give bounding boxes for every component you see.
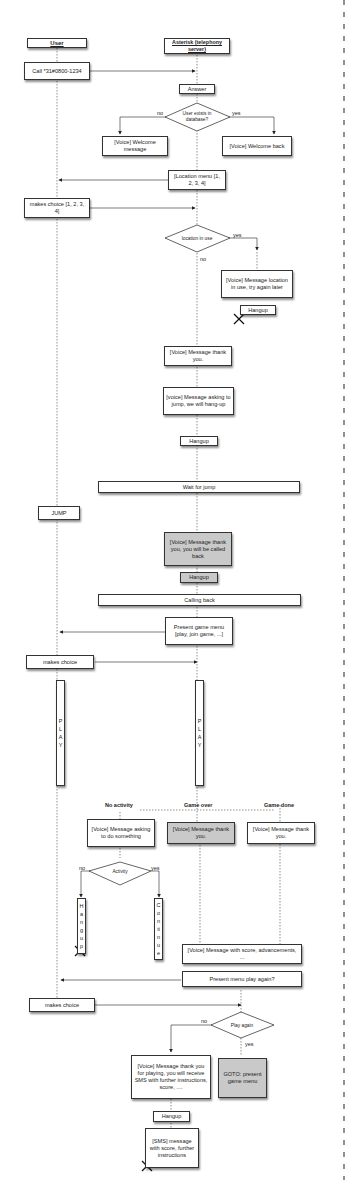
game-over-label: Game over (184, 802, 212, 808)
branch-no-label: no (157, 110, 163, 116)
terminate-x-1 (234, 314, 244, 324)
call-text: Call *31#0800-1234 (32, 68, 81, 75)
calling-back-text: Calling back (184, 597, 214, 604)
makes-choice-game-box: makes choice (26, 655, 94, 669)
makes-choice-location-text: makes choice [1, 2, 3, 4] (27, 201, 87, 215)
called-back-text: [Voice] Message thank you, you will be c… (167, 539, 229, 560)
location-in-use-text: [Voice] Message location in use, try aga… (224, 277, 290, 291)
score-message-box: [Voice] Message with score, advancements… (182, 944, 302, 964)
ask-jump-text: [voice] Message asking to jump, we will … (166, 394, 231, 408)
called-back-box: [Voice] Message thank you, you will be c… (164, 532, 232, 566)
welcome-back-box: [Voice] Welcome back (222, 136, 292, 156)
ask-do-something-box: [Voice] Message asking to do something (87, 819, 155, 847)
sms-message-box: [SMS] message with score, further instru… (145, 1128, 199, 1168)
location-menu-text: [Location menu [1, 2, 3, 4] (171, 173, 223, 187)
thank-you-game-over-box: [Voice] Message thank you. (167, 822, 235, 844)
present-play-again-text: Present menu play again? (210, 976, 275, 983)
lifeline-asterisk-label: Asterisk (telephony server) (167, 39, 227, 53)
activity-no-label: no (79, 865, 85, 871)
lifeline-asterisk-header: Asterisk (telephony server) (164, 38, 230, 54)
hangup-vertical-text: Hangup (80, 902, 84, 950)
thank-you-box-1: [Voice] Message thank you. (164, 346, 232, 366)
score-message-text: [Voice] Message with score, advancements… (185, 947, 299, 961)
location-no-label: no (200, 256, 206, 262)
thank-you-game-over-text: [Voice] Message thank you. (170, 826, 232, 840)
makes-choice-location-box: makes choice [1, 2, 3, 4] (24, 198, 90, 218)
play-again-yes-label: yes (245, 1041, 254, 1047)
jump-text: JUMP (51, 510, 66, 517)
thank-you-sms-text: [Voice] Message thank you for playing, y… (134, 1063, 208, 1091)
hangup-text-3: Hangup (189, 574, 209, 581)
hangup-text-1: Hangup (248, 307, 268, 314)
hangup-text-2: Hangup (189, 438, 209, 445)
decision-activity-text: Activity (100, 869, 140, 875)
makes-choice-again-box: makes choice (29, 998, 95, 1012)
goto-menu-box: GOTO: present game menu (218, 1058, 267, 1098)
thank-you-sms-box: [Voice] Message thank you for playing, y… (131, 1055, 211, 1099)
hangup-box-4: Hangup (153, 1111, 190, 1122)
welcome-message-text: [Voice] Welcome message (105, 139, 165, 153)
continue-vertical-bar: Continue (154, 898, 163, 960)
continue-vertical-text: Continue (157, 901, 161, 957)
goto-menu-text: GOTO: present game menu (221, 1071, 264, 1085)
game-done-label: Game done (264, 802, 294, 808)
makes-choice-game-text: makes choice (43, 659, 77, 666)
thank-you-text-1: [Voice] Message thank you. (167, 349, 229, 363)
answer-box: Answer (179, 84, 215, 94)
wait-for-jump-box: Wait for jump (98, 481, 300, 493)
present-play-again-box: Present menu play again? (182, 971, 302, 987)
play-bar-server: PLAY (195, 680, 204, 786)
location-yes-label: yes (233, 232, 242, 238)
sms-message-text: [SMS] message with score, further instru… (148, 1138, 196, 1159)
hangup-box-2: Hangup (180, 436, 218, 446)
hangup-box-3: Hangup (180, 572, 218, 583)
welcome-message-box: [Voice] Welcome message (102, 136, 168, 156)
play-bar-user: PLAY (56, 680, 65, 786)
present-game-menu-box: Present game menu [play, join game, ...] (165, 617, 233, 645)
decision-user-exists-text: User exists in database? (176, 111, 218, 122)
location-menu-box: [Location menu [1, 2, 3, 4] (168, 170, 226, 190)
hangup-text-4: Hangup (162, 1113, 182, 1120)
makes-choice-again-text: makes choice (45, 1002, 79, 1009)
ask-jump-box: [voice] Message asking to jump, we will … (163, 387, 234, 415)
ask-do-something-text: [Voice] Message asking to do something (90, 826, 152, 840)
lifeline-user-label: User (50, 40, 63, 47)
no-activity-label: No activity (105, 802, 133, 808)
location-in-use-box: [Voice] Message location in use, try aga… (221, 270, 293, 298)
lifeline-user-header: User (27, 38, 87, 48)
welcome-back-text: [Voice] Welcome back (230, 143, 285, 150)
wait-for-jump-text: Wait for jump (183, 484, 216, 491)
jump-box: JUMP (38, 506, 80, 520)
play-server-text: PLAY (198, 717, 202, 749)
calling-back-box: Calling back (98, 594, 301, 606)
thank-you-game-done-text: [Voice] Message thank you. (250, 826, 312, 840)
decision-location-text: location in use (174, 236, 220, 242)
call-box: Call *31#0800-1234 (24, 62, 90, 80)
play-user-text: PLAY (59, 717, 63, 749)
branch-yes-label: yes (232, 110, 241, 116)
play-again-no-label: no (201, 1018, 207, 1024)
thank-you-game-done-box: [Voice] Message thank you. (247, 822, 315, 844)
decision-play-again-text: Play again (222, 1023, 262, 1029)
hangup-box-1: Hangup (240, 305, 276, 315)
present-game-menu-text: Present game menu [play, join game, ...] (168, 624, 230, 638)
activity-yes-label: yes (151, 865, 160, 871)
hangup-vertical-bar: Hangup (77, 898, 86, 954)
answer-text: Answer (188, 86, 207, 93)
